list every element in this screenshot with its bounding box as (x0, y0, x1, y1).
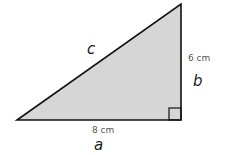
side-c-label: c (87, 40, 95, 58)
right-triangle (17, 4, 181, 120)
side-a-label: a (94, 136, 103, 154)
side-a-length: 8 cm (92, 125, 114, 135)
side-b-length: 6 cm (188, 53, 210, 63)
side-b-label: b (193, 72, 203, 90)
